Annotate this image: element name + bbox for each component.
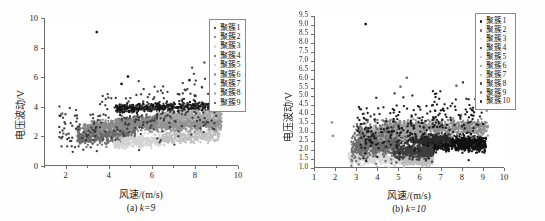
legend-item[interactable]: 聚簇1 — [214, 23, 240, 32]
x-tick-label: 3 — [354, 173, 358, 182]
x-tick — [377, 168, 378, 171]
x-tick-minor — [44, 166, 45, 168]
legend-b[interactable]: 聚簇1聚簇2聚簇3聚簇4聚簇5聚簇6聚簇7聚簇8聚簇9聚簇10 — [475, 13, 516, 110]
caption-b: (b) k=10 — [392, 204, 426, 214]
legend-marker-icon — [214, 64, 216, 66]
caption-param-b: k=10 — [406, 204, 426, 214]
y-tick — [311, 79, 314, 80]
legend-marker-icon — [480, 20, 482, 22]
y-tick-label: 5.0 — [299, 93, 308, 100]
y-tick-label: 9.0 — [299, 21, 308, 28]
y-tick — [311, 16, 314, 17]
legend-item-label: 聚簇7 — [220, 80, 240, 88]
y-tick-label: 8 — [34, 43, 38, 52]
legend-marker-icon — [480, 29, 482, 31]
legend-a[interactable]: 聚簇1聚簇2聚簇3聚簇4聚簇5聚簇6聚簇7聚簇8聚簇9 — [209, 19, 246, 112]
y-tick-label: 3.5 — [299, 120, 308, 127]
y-tick — [311, 61, 314, 62]
legend-marker-icon — [214, 92, 216, 94]
x-tick — [109, 166, 110, 169]
y-tick — [41, 48, 44, 49]
legend-marker-icon — [480, 74, 482, 76]
legend-item[interactable]: 聚簇6 — [214, 70, 240, 79]
x-tick — [238, 166, 239, 169]
legend-item-label: 聚簇5 — [486, 53, 506, 61]
y-tick — [311, 123, 314, 124]
y-tick-label: 2 — [34, 132, 38, 141]
x-tick — [195, 166, 196, 169]
y-axis-title-a: 电压波动/V — [12, 90, 27, 140]
y-tick-label: 8.5 — [299, 30, 308, 37]
y-tick-label: 1.0 — [299, 164, 308, 171]
legend-item-label: 聚簇9 — [220, 99, 240, 107]
x-axis-title-a: 风速/(m/s) — [119, 186, 163, 201]
x-tick-label: 6 — [417, 173, 421, 182]
legend-marker-icon — [214, 83, 216, 85]
legend-marker-icon — [480, 56, 482, 58]
y-tick — [41, 166, 44, 167]
x-tick-label: 7 — [439, 173, 443, 182]
caption-prefix-a: (a) — [127, 203, 138, 213]
legend-item[interactable]: 聚簇5 — [214, 61, 240, 70]
y-tick — [311, 96, 314, 97]
legend-item-label: 聚簇8 — [220, 89, 240, 97]
legend-item[interactable]: 聚簇6 — [480, 61, 510, 70]
x-tick — [420, 168, 421, 171]
x-tick-minor — [87, 166, 88, 168]
x-tick-label: 10 — [234, 171, 243, 180]
figure-sheet: 2468100246810 电压波动/V 风速/(m/s) (a) k=9 聚簇… — [0, 0, 545, 221]
y-tick-label: 8.0 — [299, 39, 308, 46]
y-tick — [311, 132, 314, 133]
y-tick — [41, 107, 44, 108]
legend-marker-icon — [480, 82, 482, 84]
y-tick — [311, 88, 314, 89]
x-tick-minor — [173, 166, 174, 168]
y-tick — [311, 114, 314, 115]
y-tick-label: 4.0 — [299, 111, 308, 118]
y-tick — [311, 34, 314, 35]
legend-item[interactable]: 聚簇7 — [480, 70, 510, 79]
legend-item-label: 聚簇10 — [486, 97, 510, 105]
legend-item-label: 聚簇5 — [220, 61, 240, 69]
legend-item-label: 聚簇7 — [486, 71, 506, 79]
x-tick-label: 2 — [63, 171, 67, 180]
legend-marker-icon — [480, 91, 482, 93]
y-tick-label: 7.5 — [299, 48, 308, 55]
y-tick-label: 2.5 — [299, 137, 308, 144]
chart-panel-b: 123456789101.01.52.02.53.03.54.04.55.05.… — [272, 0, 545, 221]
x-tick-label: 8 — [460, 173, 464, 182]
y-tick — [311, 159, 314, 160]
legend-marker-icon — [214, 36, 216, 38]
legend-item-label: 聚簇4 — [220, 52, 240, 60]
legend-item[interactable]: 聚簇8 — [214, 89, 240, 98]
legend-marker-icon — [214, 27, 216, 29]
legend-item-label: 聚簇8 — [486, 80, 506, 88]
legend-item-label: 聚簇4 — [486, 44, 506, 52]
x-tick — [483, 168, 484, 171]
x-tick-label: 10 — [500, 173, 509, 182]
y-tick-label: 4.5 — [299, 102, 308, 109]
legend-item-label: 聚簇3 — [220, 42, 240, 50]
legend-item[interactable]: 聚簇8 — [480, 79, 510, 88]
x-tick-label: 2 — [333, 173, 337, 182]
legend-item[interactable]: 聚簇10 — [480, 97, 510, 106]
y-tick-label: 6.0 — [299, 75, 308, 82]
x-tick-label: 4 — [375, 173, 379, 182]
y-tick — [311, 43, 314, 44]
y-tick — [311, 105, 314, 106]
y-tick-label: 1.5 — [299, 155, 308, 162]
legend-item-label: 聚簇2 — [220, 33, 240, 41]
y-tick-label: 0 — [34, 162, 38, 171]
y-tick — [311, 141, 314, 142]
legend-item[interactable]: 聚簇3 — [214, 42, 240, 51]
legend-marker-icon — [480, 38, 482, 40]
legend-item[interactable]: 聚簇9 — [214, 98, 240, 107]
x-tick — [398, 168, 399, 171]
legend-marker-icon — [480, 100, 482, 102]
legend-marker-icon — [214, 73, 216, 75]
x-tick-label: 6 — [150, 171, 154, 180]
y-tick-label: 9.5 — [299, 12, 308, 19]
x-tick — [66, 166, 67, 169]
x-tick — [462, 168, 463, 171]
y-tick-label: 2.0 — [299, 146, 308, 153]
